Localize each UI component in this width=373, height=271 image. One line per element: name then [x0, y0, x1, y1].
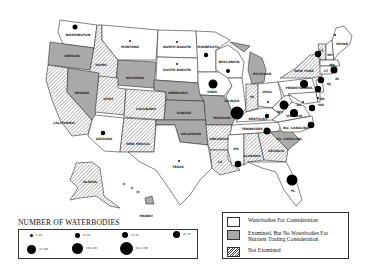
label-nebraska: NEBRASKA: [168, 91, 188, 95]
size-legend-label: 41-70: [183, 233, 191, 236]
label-illinois: ILLINOIS: [224, 99, 240, 103]
label-minnesota: MINNESOTA: [197, 45, 219, 49]
legend-label-waterbodies: Waterbodies For Consideration: [248, 217, 318, 223]
state-new-mexico: [120, 118, 156, 152]
hawaii-island-small: [131, 187, 133, 189]
dot-south-dakota: [176, 63, 178, 65]
dot-washington: [73, 25, 78, 30]
dot-wisconsin: [226, 69, 230, 73]
dot-montana: [129, 40, 131, 42]
dot-1-icon: [30, 234, 33, 237]
label-mississippi: MS: [233, 147, 239, 151]
size-legend-label: 21-40: [131, 234, 139, 237]
dot-west-virginia: [280, 101, 289, 110]
dot-pennsylvania: [300, 80, 308, 88]
hawaii-island-small: [123, 183, 125, 185]
dot-3-icon: [122, 232, 128, 238]
size-legend-item: 101-200: [72, 243, 97, 254]
legend-label-not-examined: Not Examined: [248, 247, 280, 253]
waterbody-size-legend: NUMBER OF WATERBODIES 1-10 11-20 21-40 4…: [18, 218, 198, 259]
label-michigan: MICHIGAN: [253, 72, 272, 76]
dot-tennessee: [264, 128, 271, 135]
dot-florida: [287, 175, 298, 186]
white-swatch-icon: [227, 217, 240, 227]
state-hawaii: [145, 196, 154, 204]
size-legend-label: 11-20: [83, 234, 91, 237]
hatched-swatch-icon: [227, 247, 240, 257]
legend-label-examined-none: Examined, But No Waterbodies For Nutrien…: [248, 230, 328, 243]
state-alaska: [70, 162, 120, 208]
label-arkansas: ARKANSAS: [209, 137, 229, 141]
dot-ohio: [267, 101, 269, 103]
dot-dc: [302, 101, 304, 103]
label-delaware: DE: [320, 97, 325, 101]
dot-illinois: [231, 107, 244, 120]
dot-minnesota: [204, 53, 208, 57]
dot-north-carolina: [308, 122, 315, 129]
dot-new-jersey: [315, 86, 321, 92]
dot-maryland: [309, 105, 315, 111]
size-legend-item: 71-100: [27, 245, 48, 254]
size-legend-title: NUMBER OF WATERBODIES: [18, 218, 198, 227]
label-texas: TEXAS: [172, 165, 184, 169]
label-kentucky: KENTUCKY: [248, 117, 268, 121]
label-north-carolina: NO. CAROLINA: [283, 126, 309, 130]
legend-label-line2: Nutrient Trading Consideration: [248, 236, 318, 242]
dot-texas: [178, 160, 180, 162]
label-wisconsin: WISCONSIN: [219, 60, 240, 64]
label-florida: FL: [291, 189, 295, 193]
category-legend: Waterbodies For Consideration Examined, …: [222, 212, 349, 259]
label-new-hampshire: NH: [327, 53, 333, 57]
label-wyoming: WYOMING: [126, 76, 144, 80]
label-missouri: MISSOURI: [213, 116, 231, 120]
state-arizona: [88, 115, 124, 152]
label-new-york: NEW YORK: [294, 69, 314, 73]
size-legend-label: 1-10: [36, 234, 42, 237]
hawaii-island-small: [137, 191, 140, 193]
size-legend-item: 11-20: [75, 233, 90, 238]
dot-2-icon: [75, 233, 80, 238]
label-dc: DC: [297, 103, 303, 107]
label-north-dakota: NORTH DAKOTA: [163, 45, 192, 49]
state-colorado: [124, 89, 166, 120]
size-legend-label: 101-200: [86, 247, 97, 250]
size-legend-item: 1-10: [30, 234, 42, 237]
label-ohio: OHIO: [262, 90, 272, 94]
state-north-dakota: [157, 30, 198, 58]
legend-label-line1: Examined, But No Waterbodies For: [248, 230, 328, 236]
size-legend-label: Over 200: [136, 247, 148, 250]
size-legend-item: Over 200: [120, 242, 148, 255]
legend-row-examined-none: Examined, But No Waterbodies For Nutrien…: [227, 230, 328, 243]
label-arizona: ARIZONA: [96, 137, 113, 141]
label-kansas: KANSAS: [177, 111, 192, 115]
size-legend-item: 41-70: [173, 231, 191, 238]
label-oregon: OREGON: [64, 54, 80, 58]
label-maine: MAINE: [336, 42, 348, 46]
dot-delaware: [317, 97, 319, 99]
size-legend-box: 1-10 11-20 21-40 41-70 71-100 101-200 Ov…: [18, 229, 198, 259]
label-new-jersey: NJ: [327, 82, 331, 86]
label-alabama: ALABAMA: [243, 154, 261, 158]
label-indiana: IN: [250, 95, 254, 99]
label-new-mexico: NEW MEXICO: [126, 142, 150, 146]
dot-arizona: [101, 131, 106, 136]
label-montana: MONTANA: [121, 45, 140, 49]
dot-4-icon: [173, 231, 180, 238]
dot-connecticut: [318, 77, 324, 83]
state-new-york: [280, 54, 322, 78]
dot-kentucky: [265, 114, 269, 118]
dot-virginia: [290, 109, 298, 117]
label-georgia: GEORGIA: [268, 149, 285, 153]
label-tennessee: TENNESSEE: [242, 127, 263, 131]
label-iowa: IOWA: [207, 90, 217, 94]
label-washington: WASHINGTON: [66, 33, 91, 37]
dot-new-york: [315, 51, 321, 57]
dot-7-icon: [120, 242, 133, 255]
label-pennsylvania: PENNSYLVANIA: [285, 86, 313, 90]
dot-maine: [334, 34, 336, 36]
label-south-dakota: SOUTH DAKOTA: [163, 68, 192, 72]
label-idaho: IDAHO: [95, 63, 107, 67]
label-oklahoma: OKLAHOMA: [181, 132, 202, 136]
label-massachusetts: MA: [329, 63, 335, 67]
label-utah: UTAH: [103, 97, 113, 101]
